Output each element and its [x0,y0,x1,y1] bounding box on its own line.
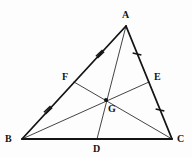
tick-EC [156,109,165,111]
median-CF [74,82,172,139]
geometry-figure: A B C D E F G [0,0,192,158]
tick-AE-stroke [133,53,142,55]
point-label-D: D [93,144,100,154]
vertex-label-C: C [177,134,184,144]
point-label-E: E [154,72,161,82]
side-AB [22,26,126,139]
side-AC [126,26,172,139]
tick-EC-stroke [156,109,165,111]
vertex-label-A: A [122,10,129,20]
triangle-diagram [0,0,192,158]
median-BE [22,82,149,139]
vertex-label-B: B [5,134,12,144]
tick-AE [133,53,142,55]
centroid-label-G: G [108,104,116,114]
centroid-G [104,98,108,102]
point-label-F: F [62,72,68,82]
